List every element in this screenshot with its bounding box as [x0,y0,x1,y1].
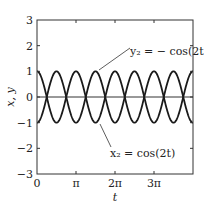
y-tick-label: 1 [26,65,33,78]
x-tick-label: π [72,177,79,190]
y-tick-label: −1 [17,117,33,130]
annotation-label-y2: y₂ = − cos(2t) [129,45,204,58]
y-tick-label: −3 [17,168,33,181]
x-tick-label: 0 [34,177,41,190]
annotation-leader-x2 [100,124,111,147]
y-axis-label: x, y [4,87,17,107]
annotations: y₂ = − cos(2t) x₂ = cos(2t) [99,45,204,160]
x-axis-label: t [113,191,118,204]
chart: 0π2π3π 3210−1−2−3 t x, y y₂ = − cos(2t) … [0,0,204,209]
y-tick-label: 2 [26,40,33,53]
x-tick-label: 2π [108,177,122,190]
annotation-label-x2: x₂ = cos(2t) [110,147,175,160]
y-tick-label: 3 [26,14,33,27]
y-tick-label: −2 [17,142,33,155]
x-tick-label: 3π [147,177,161,190]
annotation-leader-y2 [99,48,130,70]
y-tick-label: 0 [26,91,33,104]
